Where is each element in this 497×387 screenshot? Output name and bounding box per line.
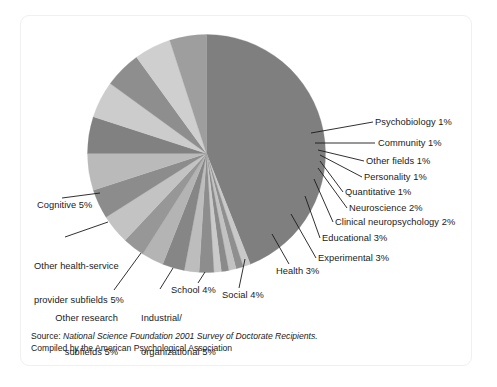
pie-slices	[88, 35, 326, 273]
callout-neuroscience: Neuroscience 2%	[349, 203, 423, 214]
callout-other-fields: Other fields 1%	[366, 156, 430, 167]
chart-stage: Psychobiology 1% Community 1% Other fiel…	[0, 0, 497, 387]
callout-other-health-line1: Other health-service	[34, 261, 124, 272]
callout-health: Health 3%	[276, 266, 319, 277]
leader-other-health	[65, 222, 108, 237]
callout-educational: Educational 3%	[322, 233, 387, 244]
callout-personality: Personality 1%	[364, 172, 427, 183]
callout-other-health-service: Other health-service provider subfields …	[34, 238, 124, 329]
caption-source-prefix: Source:	[31, 331, 63, 341]
leader-personality	[320, 155, 362, 177]
caption-source-line: Source: National Science Foundation 2001…	[31, 331, 361, 343]
leader-cognitive	[62, 193, 100, 198]
callout-cognitive: Cognitive 5%	[37, 200, 92, 211]
leader-neuroscience	[318, 168, 347, 208]
leader-school	[198, 272, 205, 283]
callout-clinical-neuropsychology: Clinical neuropsychology 2%	[335, 217, 455, 228]
callout-other-health-line2: provider subfields 5%	[34, 295, 124, 306]
callout-industrial-line1: Industrial/	[141, 313, 216, 324]
source-caption: Source: National Science Foundation 2001…	[31, 331, 361, 354]
callout-psychobiology: Psychobiology 1%	[375, 117, 452, 128]
callout-community: Community 1%	[378, 138, 442, 149]
caption-compiled-line: Compiled by the American Psychological A…	[31, 343, 361, 355]
callout-experimental: Experimental 3%	[318, 253, 389, 264]
callout-quantitative: Quantitative 1%	[345, 187, 411, 198]
caption-source-title: National Science Foundation 2001 Survey …	[63, 331, 318, 341]
callout-social: Social 4%	[222, 290, 264, 301]
